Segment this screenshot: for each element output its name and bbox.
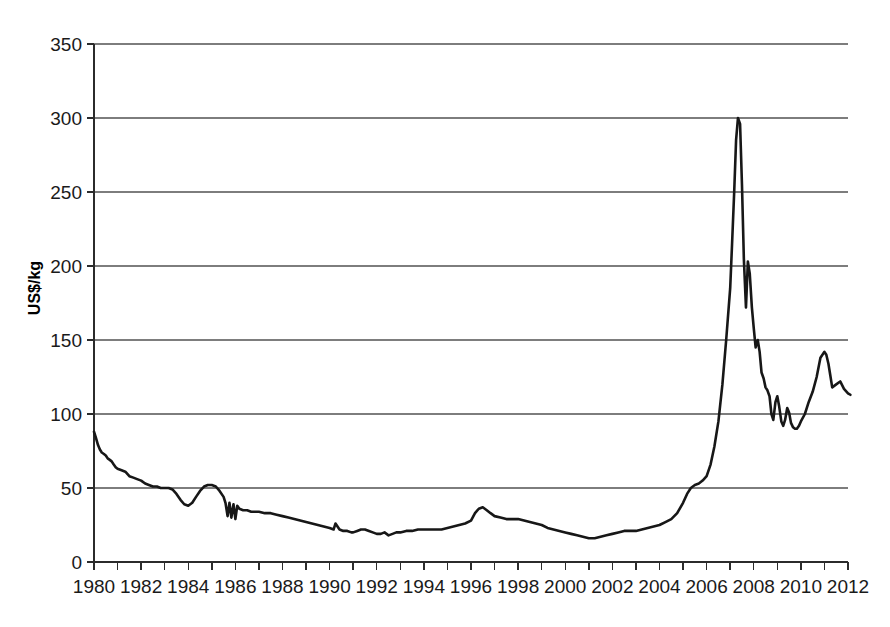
price-line-chart: 050100150200250300350 198019821984198619… — [0, 0, 890, 627]
y-tick-label-350: 350 — [50, 34, 82, 55]
chart-background — [0, 0, 890, 627]
x-tick-label-1996: 1996 — [450, 576, 492, 597]
x-tick-label-1982: 1982 — [120, 576, 162, 597]
x-tick-label-1994: 1994 — [403, 576, 446, 597]
y-tick-label-250: 250 — [50, 182, 82, 203]
y-tick-label-100: 100 — [50, 404, 82, 425]
x-tick-label-1992: 1992 — [356, 576, 398, 597]
x-tick-label-1984: 1984 — [167, 576, 210, 597]
x-tick-label-2012: 2012 — [827, 576, 869, 597]
x-tick-label-2008: 2008 — [733, 576, 775, 597]
x-tick-label-1980: 1980 — [73, 576, 115, 597]
x-tick-label-2000: 2000 — [544, 576, 586, 597]
y-tick-label-150: 150 — [50, 330, 82, 351]
x-tick-label-1986: 1986 — [214, 576, 256, 597]
x-tick-label-2004: 2004 — [638, 576, 681, 597]
y-axis-title: US$/kg — [26, 261, 43, 315]
x-tick-label-2002: 2002 — [591, 576, 633, 597]
y-tick-label-0: 0 — [71, 552, 82, 573]
x-tick-label-2006: 2006 — [685, 576, 727, 597]
x-tick-label-1990: 1990 — [308, 576, 350, 597]
x-tick-label-1988: 1988 — [261, 576, 303, 597]
y-tick-label-200: 200 — [50, 256, 82, 277]
x-axis-tick-labels: 1980198219841986198819901992199419961998… — [73, 576, 869, 597]
y-tick-label-300: 300 — [50, 108, 82, 129]
x-tick-label-1998: 1998 — [497, 576, 539, 597]
x-tick-label-2010: 2010 — [780, 576, 822, 597]
chart-container: 050100150200250300350 198019821984198619… — [0, 0, 890, 627]
y-tick-label-50: 50 — [61, 478, 82, 499]
